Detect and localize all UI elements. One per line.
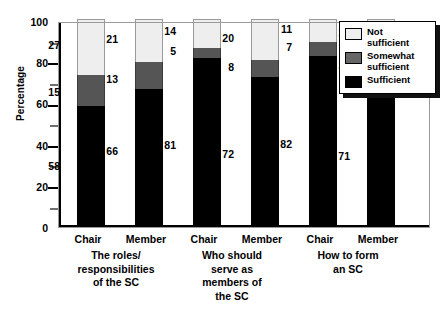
y-tick-minor-10 [50, 208, 58, 210]
legend-label-not-sufficient: Not sufficient [367, 27, 409, 48]
value-label-roles-member-not: 21 [94, 33, 118, 45]
legend-item-not-sufficient[interactable]: Not sufficient [345, 27, 431, 48]
y-tick-20 [48, 187, 58, 189]
y-tick-60 [48, 105, 58, 107]
x-label-members-chair: Chair [176, 233, 232, 245]
y-tick-label-80: 80 [14, 57, 48, 69]
segment-sufficient [135, 89, 163, 225]
value-label-roles-chair-some: 15 [36, 86, 60, 98]
legend-label-line: sufficient [367, 61, 409, 72]
y-tick-minor-50 [50, 125, 58, 127]
y-tick-40 [48, 146, 58, 148]
segment-sufficient [251, 77, 279, 225]
y-tick-label-0: 0 [14, 222, 48, 234]
segment-somewhat-sufficient [251, 60, 279, 76]
y-tick-label-100: 100 [14, 16, 48, 28]
value-label-members-member-suf: 72 [210, 148, 234, 160]
y-tick-label-40: 40 [14, 140, 48, 152]
legend-swatch-not-sufficient-icon [345, 28, 362, 40]
x-group-line: the SC [177, 290, 287, 304]
legend-label-somewhat-sufficient: Somewhat sufficient [367, 51, 415, 72]
legend-label-line: sufficient [367, 37, 409, 48]
x-label-roles-chair: Chair [60, 233, 116, 245]
x-group-label-roles: The roles/ responsibilities of the SC [61, 249, 171, 290]
value-label-members-member-some: 8 [210, 61, 234, 73]
value-label-form-chair-some: 7 [268, 41, 292, 53]
segment-not-sufficient [77, 19, 105, 75]
legend-swatch-sufficient-icon [345, 76, 362, 88]
value-label-roles-member-suf: 66 [94, 145, 118, 157]
x-label-form-member: Member [350, 233, 406, 245]
stacked-bar-chart: Percentage 100 80 60 40 20 0 [0, 0, 447, 312]
segment-sufficient [77, 106, 105, 225]
x-label-roles-member: Member [118, 233, 174, 245]
bar-form-chair[interactable] [309, 19, 337, 225]
value-label-members-chair-some: 5 [152, 45, 176, 57]
value-label-members-chair-not: 14 [152, 25, 176, 37]
x-group-line: of the SC [61, 276, 171, 290]
x-group-line: members of [177, 276, 287, 290]
value-label-roles-chair-suf: 58 [36, 160, 60, 172]
legend: Not sufficient Somewhat sufficient Suffi… [339, 21, 436, 94]
x-group-line: Who should [177, 249, 287, 263]
bar-roles-chair[interactable] [77, 19, 105, 225]
x-group-line: serve as [177, 263, 287, 277]
x-group-line: How to form [293, 249, 403, 263]
segment-sufficient [309, 56, 337, 225]
legend-label-line: Somewhat [367, 50, 415, 61]
value-label-form-member-suf: 71 [326, 150, 350, 162]
segment-sufficient [367, 79, 395, 225]
bar-members-chair[interactable] [193, 19, 221, 225]
x-group-line: responsibilities [61, 263, 171, 277]
legend-item-somewhat-sufficient[interactable]: Somewhat sufficient [345, 51, 431, 72]
value-label-form-chair-suf: 82 [268, 138, 292, 150]
segment-sufficient [193, 58, 221, 225]
legend-label-sufficient: Sufficient [367, 75, 410, 86]
x-group-line: an SC [293, 263, 403, 277]
x-group-label-form: How to form an SC [293, 249, 403, 276]
value-label-members-chair-suf: 81 [152, 139, 176, 151]
value-label-members-member-not: 20 [210, 32, 234, 44]
x-label-members-member: Member [234, 233, 290, 245]
legend-item-sufficient[interactable]: Sufficient [345, 75, 431, 88]
value-label-form-chair-not: 11 [268, 23, 292, 35]
value-label-roles-member-some: 13 [94, 73, 118, 85]
y-tick-label-60: 60 [14, 98, 48, 110]
legend-swatch-somewhat-sufficient-icon [345, 52, 362, 64]
segment-somewhat-sufficient [309, 42, 337, 56]
x-group-line: The roles/ [61, 249, 171, 263]
x-label-form-chair: Chair [292, 233, 348, 245]
value-label-roles-chair-not: 27 [36, 39, 60, 51]
y-tick-80 [48, 63, 58, 65]
segment-somewhat-sufficient [135, 62, 163, 89]
y-tick-label-20: 20 [14, 181, 48, 193]
x-group-label-members: Who should serve as members of the SC [177, 249, 287, 303]
legend-label-line: Not [367, 26, 383, 37]
segment-somewhat-sufficient [193, 48, 221, 58]
